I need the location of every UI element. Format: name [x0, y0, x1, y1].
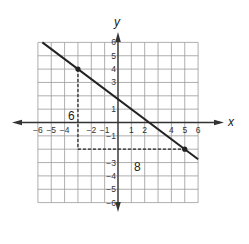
y-tick-label: 6: [111, 37, 116, 47]
x-tick-label: 5: [182, 125, 187, 135]
coordinate-graph: −6−5−4−2−11245665431−1−3−4−5−6 x y 6 8: [0, 0, 249, 244]
y-tick-label: −5: [106, 184, 116, 194]
y-axis-up-arrow-icon: [115, 32, 121, 42]
y-axis-label: y: [113, 15, 121, 29]
x-tick-label: 6: [196, 125, 201, 135]
y-tick-label: 3: [111, 77, 116, 87]
x-tick-label: −6: [33, 125, 43, 135]
y-tick-label: −6: [106, 198, 116, 208]
x-tick-label: −5: [46, 125, 56, 135]
run-label: 8: [134, 160, 141, 174]
y-tick-label: −4: [106, 171, 116, 181]
x-axis-label: x: [227, 115, 235, 129]
x-axis-right-arrow-icon: [214, 120, 224, 126]
x-tick-label: 1: [129, 125, 134, 135]
x-tick-label: 4: [169, 125, 174, 135]
axes: [12, 32, 224, 212]
plotted-line: [42, 42, 198, 159]
y-tick-label: 1: [111, 104, 116, 114]
x-tick-label: 2: [142, 125, 147, 135]
y-tick-label: 4: [111, 64, 116, 74]
point-marker: [75, 67, 80, 72]
y-tick-label: 5: [111, 51, 116, 61]
x-axis-left-arrow-icon: [12, 120, 22, 126]
rise-label: 6: [68, 109, 75, 123]
y-axis-down-arrow-icon: [115, 202, 121, 212]
point-marker: [182, 147, 187, 152]
y-tick-label: −1: [106, 131, 116, 141]
x-tick-label: −2: [86, 125, 96, 135]
x-tick-label: −4: [60, 125, 70, 135]
y-tick-label: −3: [106, 158, 116, 168]
line-segment: [42, 42, 198, 159]
